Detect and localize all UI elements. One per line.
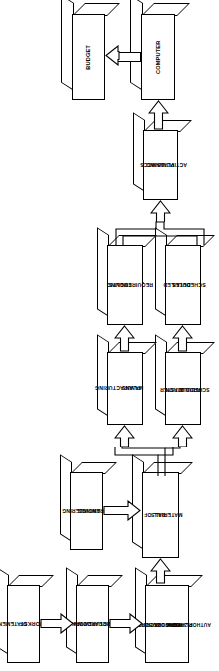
swd-line-5: AUTHORIZATION	[163, 621, 216, 627]
node-work-breakdown-structure[interactable]: WORK BREAKDOWN STRUCTURE	[76, 585, 109, 663]
mccs-line-3: ACTIVITIES	[157, 162, 187, 168]
tooling-label-wrap: TOOLING REQUIREMENTS	[107, 245, 143, 325]
tooling-line-2: REQUIREMENTS	[109, 282, 153, 288]
node-subdivided-work-description[interactable]: SUBDIVIDED WORK DESCRIPTION OR WORK PLAN…	[145, 585, 189, 663]
master-line-3: SCHEDULE	[177, 386, 213, 392]
arrow-sow-to-wbs	[40, 613, 74, 634]
arrow-head-right-icon	[103, 500, 141, 521]
node-label-budget: BUDGET	[85, 45, 92, 70]
node-label-swd: SUBDIVIDED WORK DESCRIPTION OR WORK PLAN…	[141, 597, 193, 650]
budget-label-wrap: BUDGET	[72, 14, 105, 100]
node-label-mccs: MCCS PLANNING ACTIVITIES	[146, 150, 176, 180]
arrow-head-left-icon	[105, 45, 140, 66]
sow-label-wrap: STATEMENT OF WORK	[7, 585, 40, 663]
arrow-computer-to-budget	[105, 45, 140, 66]
swd-label-wrap: SUBDIVIDED WORK DESCRIPTION OR WORK PLAN…	[145, 585, 189, 663]
wbs-label-wrap: WORK BREAKDOWN STRUCTURE	[76, 585, 109, 663]
bom-label-wrap: BILL OF MATERIALS	[142, 472, 179, 558]
arrow-bom-to-master	[172, 425, 193, 447]
mfgplans-line-2: PLANS	[107, 385, 155, 391]
schedules-label-wrap: DETAILED SCHEDULES	[165, 245, 201, 325]
arrow-head-up-icon	[114, 325, 135, 352]
schedules-line-2: SCHEDULES	[172, 282, 206, 288]
node-detailed-schedules[interactable]: DETAILED SCHEDULES	[165, 245, 201, 325]
arrow-mfgplans-to-tooling	[114, 325, 135, 352]
arrow-manifold-to-mccs	[150, 200, 171, 222]
arrow-head-right-icon	[40, 613, 74, 634]
arrow-head-up-icon	[150, 558, 171, 584]
node-computer[interactable]: COMPUTER	[141, 14, 175, 100]
arrow-head-up-icon	[148, 100, 169, 130]
arrow-head-up-icon	[150, 200, 171, 222]
flowchart-diagram: BUDGET COMPUTER MCCS PLANNING ACTI	[0, 0, 219, 671]
arrow-bom-to-mfgplans	[114, 425, 135, 447]
computer-label-wrap: COMPUTER	[141, 14, 175, 100]
arrow-swd-to-bom	[150, 558, 171, 584]
engdwg-label-wrap: ENGINEERING DRAWINGS	[70, 472, 103, 550]
arrow-head-up-icon	[114, 425, 135, 447]
mccs-label-wrap: MCCS PLANNING ACTIVITIES	[143, 130, 178, 200]
node-bill-of-materials[interactable]: BILL OF MATERIALS	[142, 472, 179, 558]
node-statement-of-work[interactable]: STATEMENT OF WORK	[7, 585, 40, 663]
node-label-bom: BILL OF MATERIALS	[151, 499, 169, 531]
master-label-wrap: MASTER PRODUCTION SCHEDULE	[165, 352, 201, 425]
node-label-engdwg: ENGINEERING DRAWINGS	[78, 492, 96, 530]
node-label-mfgplans: MANUFACTURING PLANS	[116, 364, 134, 412]
node-label-wbs: WORK BREAKDOWN STRUCTURE	[77, 606, 108, 643]
arrow-wbs-to-swd	[109, 613, 143, 634]
mfgplans-label-wrap: MANUFACTURING PLANS	[107, 352, 143, 425]
node-label-master: MASTER PRODUCTION SCHEDULE	[168, 371, 197, 407]
node-budget[interactable]: BUDGET	[72, 14, 105, 100]
arrow-engdwg-to-bom	[103, 500, 141, 521]
node-tooling-requirements[interactable]: TOOLING REQUIREMENTS	[107, 245, 143, 325]
node-engineering-drawings[interactable]: ENGINEERING DRAWINGS	[70, 472, 103, 550]
node-label-computer: COMPUTER	[155, 40, 162, 74]
node-mccs-planning-activities[interactable]: MCCS PLANNING ACTIVITIES	[143, 130, 178, 200]
node-label-tooling: TOOLING REQUIREMENTS	[116, 263, 134, 307]
arrow-head-right-icon	[109, 613, 143, 634]
node-manufacturing-plans[interactable]: MANUFACTURING PLANS	[107, 352, 143, 425]
arrow-mccs-to-computer	[148, 100, 169, 130]
bom-line-2: MATERIALS	[151, 512, 183, 518]
node-label-sow: STATEMENT OF WORK	[8, 608, 39, 641]
node-label-schedules: DETAILED SCHEDULES	[174, 268, 192, 302]
node-master-production-schedule[interactable]: MASTER PRODUCTION SCHEDULE	[165, 352, 201, 425]
arrow-head-up-icon	[172, 325, 193, 352]
arrow-head-up-icon	[172, 425, 193, 447]
arrow-master-to-schedules	[172, 325, 193, 352]
